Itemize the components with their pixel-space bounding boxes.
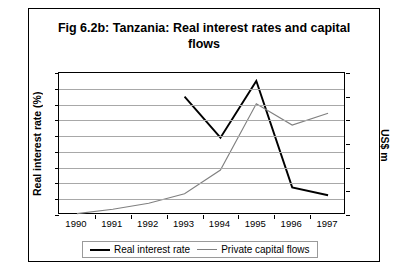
left-axis-tick <box>55 168 59 169</box>
gridline <box>59 152 344 153</box>
legend-label: Real interest rate <box>114 244 190 255</box>
right-axis-title: US$ m <box>378 110 392 180</box>
plot-area: 1086420-2-4-6-8300250200150100500 <box>58 72 345 214</box>
x-axis-label: 1994 <box>199 218 239 229</box>
legend-swatch <box>197 249 217 250</box>
x-axis-label: 1990 <box>56 218 96 229</box>
series-line <box>185 81 329 195</box>
right-axis-tick <box>346 120 350 121</box>
left-axis-tick <box>55 89 59 90</box>
right-axis-tick <box>346 73 350 74</box>
right-axis-tick <box>346 97 350 98</box>
left-axis-tick <box>55 136 59 137</box>
left-axis-tick <box>55 73 59 74</box>
gridline <box>59 199 344 200</box>
x-axis-label: 1997 <box>307 218 347 229</box>
gridline <box>59 105 344 106</box>
left-axis-tick <box>55 152 59 153</box>
left-axis-tick <box>55 183 59 184</box>
gridline <box>59 136 344 137</box>
x-axis-label: 1996 <box>271 218 311 229</box>
x-axis-label: 1992 <box>128 218 168 229</box>
legend-swatch <box>90 249 110 251</box>
gridline <box>59 120 344 121</box>
gridline <box>59 183 344 184</box>
x-axis-labels: 19901991199219931994199519961997 <box>58 218 345 230</box>
legend-item: Private capital flows <box>197 244 309 255</box>
right-axis-tick <box>346 215 350 216</box>
legend-label: Private capital flows <box>221 244 309 255</box>
x-axis-label: 1993 <box>164 218 204 229</box>
right-axis-tick <box>346 144 350 145</box>
gridline <box>59 168 344 169</box>
left-axis-tick <box>55 199 59 200</box>
chart-title: Fig 6.2b: Tanzania: Real interest rates … <box>44 20 364 52</box>
chart-figure: Fig 6.2b: Tanzania: Real interest rates … <box>0 0 408 271</box>
right-axis-tick <box>346 168 350 169</box>
x-axis-label: 1991 <box>92 218 132 229</box>
left-axis-title: Real interest rate (%) <box>30 78 44 210</box>
legend-item: Real interest rate <box>90 244 190 255</box>
gridline <box>59 89 344 90</box>
left-axis-tick <box>55 120 59 121</box>
series-layer <box>59 73 346 215</box>
x-axis-label: 1995 <box>235 218 275 229</box>
left-axis-tick <box>55 215 59 216</box>
chart-legend: Real interest ratePrivate capital flows <box>82 241 318 258</box>
left-axis-tick <box>55 105 59 106</box>
right-axis-tick <box>346 191 350 192</box>
